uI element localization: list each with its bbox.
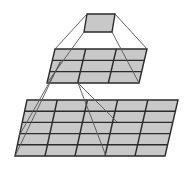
middle-layer-outline — [47, 49, 147, 83]
top-unit-outline — [84, 14, 115, 32]
top-unit — [84, 14, 115, 32]
connector-line — [55, 14, 87, 49]
middle-layer — [47, 49, 147, 83]
bottom-layer-outline — [15, 100, 178, 156]
connector-line — [115, 14, 147, 49]
bottom-layer — [15, 100, 178, 156]
layers — [15, 14, 178, 156]
receptive-field-diagram — [0, 0, 189, 170]
